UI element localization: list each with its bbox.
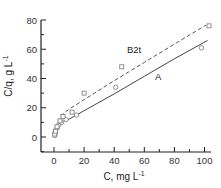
series-a	[53, 41, 208, 138]
x-ticks: 020406080100	[51, 147, 212, 166]
y-axis-title: C/q, g L-1	[2, 55, 14, 96]
x-tick-label: 80	[169, 155, 180, 166]
x-tick-label: 40	[109, 155, 120, 166]
series-b2t	[53, 24, 211, 136]
axes: 020406080 020406080100	[26, 15, 212, 167]
series-label-b2t: B2t	[127, 44, 142, 55]
y-tick-label: 0	[32, 132, 37, 143]
data-point-circle	[114, 85, 118, 89]
data-point-square	[120, 65, 124, 69]
data-point-square	[207, 24, 211, 28]
y-tick-label: 80	[26, 15, 37, 26]
data-point-square	[55, 125, 59, 129]
x-tick-label: 0	[51, 155, 56, 166]
data-point-square	[70, 110, 74, 114]
fit-line-b2t	[55, 25, 206, 135]
data-point-square	[54, 129, 58, 133]
series-label-a: A	[155, 71, 162, 82]
x-tick-label: 100	[197, 155, 213, 166]
y-ticks: 020406080	[26, 15, 46, 152]
x-tick-label: 20	[79, 155, 90, 166]
y-tick-label: 40	[26, 73, 37, 84]
data-point-circle	[199, 46, 203, 50]
data-point-square	[61, 115, 65, 119]
data-point-square	[58, 119, 62, 123]
x-axis-title: C, mg L-1	[103, 170, 144, 182]
data-point-square	[82, 91, 86, 95]
y-tick-label: 60	[26, 44, 37, 55]
x-tick-label: 60	[139, 155, 150, 166]
data-point-circle	[74, 113, 78, 117]
chart-canvas: 020406080 020406080100 C/q, g L-1 C, mg …	[0, 0, 221, 188]
y-tick-label: 20	[26, 102, 37, 113]
series-layer	[53, 24, 211, 138]
